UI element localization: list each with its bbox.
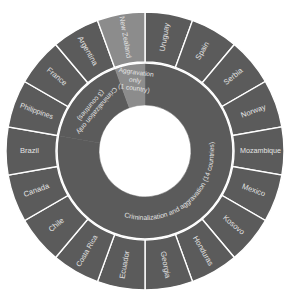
label-brazil: Brazil — [20, 146, 39, 155]
sunburst-chart: UruguaySpainSerbiaNorwayMozambiqueMexico… — [0, 0, 287, 297]
label-mozambique: Mozambique — [240, 146, 281, 155]
sunburst-svg: UruguaySpainSerbiaNorwayMozambiqueMexico… — [0, 0, 287, 297]
